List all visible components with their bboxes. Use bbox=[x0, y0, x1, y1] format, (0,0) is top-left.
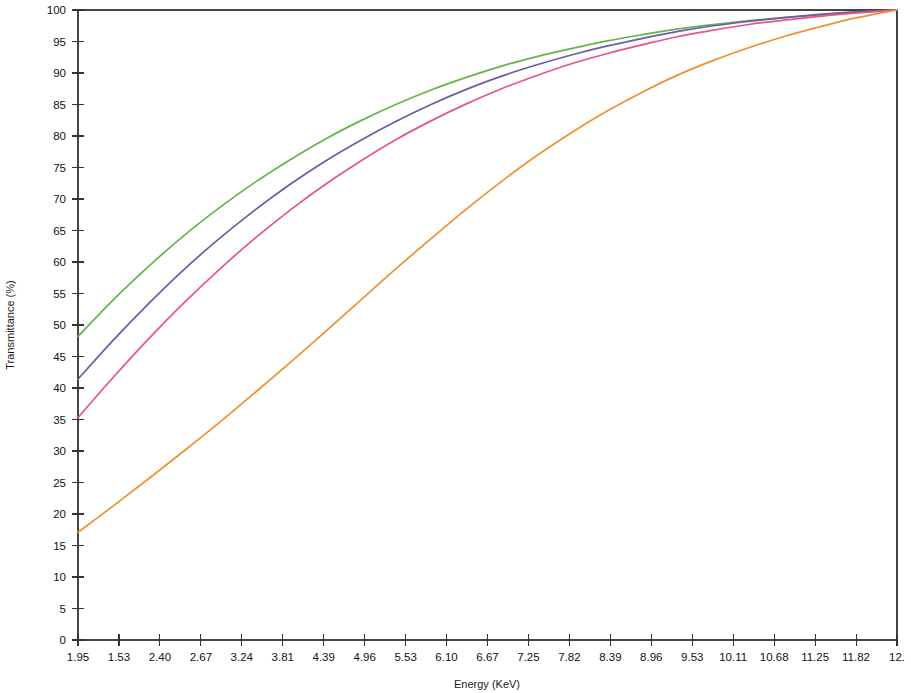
x-tick-label: 2.40 bbox=[149, 651, 171, 663]
data-series-group bbox=[78, 10, 897, 532]
x-axis-title: Energy (KeV) bbox=[454, 678, 520, 690]
x-tick-label: 3.24 bbox=[231, 651, 254, 663]
y-tick-label: 80 bbox=[53, 130, 66, 142]
y-tick-label: 30 bbox=[53, 445, 66, 457]
x-tick-label: 11.25 bbox=[801, 651, 829, 663]
x-axis-ticks bbox=[78, 634, 897, 646]
y-tick-label: 95 bbox=[53, 36, 66, 48]
y-tick-label: 85 bbox=[53, 99, 66, 111]
y-tick-label: 50 bbox=[53, 319, 66, 331]
y-tick-label: 100 bbox=[47, 4, 66, 16]
x-axis-tick-labels: 1.951.532.402.673.243.814.394.965.536.10… bbox=[67, 651, 905, 663]
y-axis-tick-labels: 0510152025303540455055606570758085909510… bbox=[47, 4, 66, 646]
y-tick-label: 45 bbox=[53, 351, 66, 363]
y-tick-label: 75 bbox=[53, 162, 66, 174]
x-tick-label: 4.39 bbox=[313, 651, 335, 663]
y-tick-label: 55 bbox=[53, 288, 66, 300]
x-tick-label: 1.53 bbox=[108, 651, 130, 663]
y-tick-label: 5 bbox=[60, 603, 66, 615]
y-tick-label: 90 bbox=[53, 67, 66, 79]
y-tick-label: 70 bbox=[53, 193, 66, 205]
y-tick-label: 20 bbox=[53, 508, 66, 520]
x-tick-label: 8.96 bbox=[640, 651, 662, 663]
x-tick-label: 6.10 bbox=[435, 651, 457, 663]
x-tick-label: 1.95 bbox=[67, 651, 89, 663]
curve-purple bbox=[78, 10, 897, 379]
x-tick-label: 2.67 bbox=[190, 651, 212, 663]
y-tick-label: 60 bbox=[53, 256, 66, 268]
y-axis-ticks bbox=[72, 10, 84, 640]
plot-frame bbox=[78, 10, 897, 640]
x-tick-label: 5.53 bbox=[394, 651, 416, 663]
x-tick-label: 6.67 bbox=[476, 651, 498, 663]
x-tick-label: 10.11 bbox=[719, 651, 747, 663]
x-tick-label: 8.39 bbox=[599, 651, 621, 663]
y-tick-label: 65 bbox=[53, 225, 66, 237]
x-tick-label: 7.82 bbox=[558, 651, 580, 663]
y-tick-label: 25 bbox=[53, 477, 66, 489]
plot-border bbox=[78, 10, 897, 640]
x-tick-label: 9.53 bbox=[681, 651, 703, 663]
chart-canvas: 1.951.532.402.673.243.814.394.965.536.10… bbox=[0, 0, 911, 693]
x-tick-label: 11.82 bbox=[842, 651, 870, 663]
y-tick-label: 40 bbox=[53, 382, 66, 394]
y-tick-label: 15 bbox=[53, 540, 66, 552]
x-tick-label: 3.81 bbox=[272, 651, 294, 663]
y-tick-label: 10 bbox=[53, 571, 66, 583]
x-tick-label: 4.96 bbox=[353, 651, 375, 663]
y-tick-label: 0 bbox=[60, 634, 66, 646]
x-tick-label: 12. bbox=[889, 651, 905, 663]
curve-orange bbox=[78, 10, 897, 532]
transmittance-chart: 1.951.532.402.673.243.814.394.965.536.10… bbox=[0, 0, 911, 693]
y-tick-label: 35 bbox=[53, 414, 66, 426]
x-tick-label: 10.68 bbox=[760, 651, 789, 663]
y-axis-title: Transmittance (%) bbox=[4, 280, 16, 369]
x-tick-label: 7.25 bbox=[517, 651, 539, 663]
